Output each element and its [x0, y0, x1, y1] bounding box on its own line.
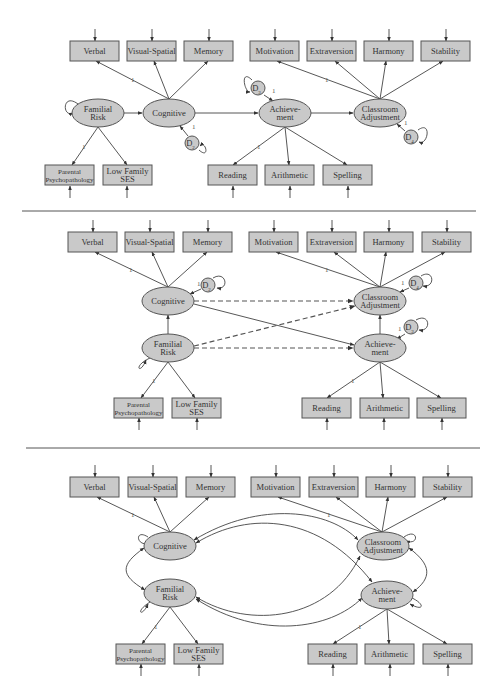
indicator-motivation: Motivation [249, 232, 298, 252]
indicator-extraversion: Extraversion [307, 41, 356, 61]
indicator-label: Visual-Spatial [125, 237, 174, 247]
fixed-loading-label: 1 [129, 266, 133, 274]
fixed-loading-label: 1 [325, 266, 329, 274]
indicator-label: Arithmetic [271, 170, 308, 180]
indicator-harmony: Harmony [364, 232, 413, 252]
disturbance-d3: D3 [251, 81, 265, 95]
indicator-label: Verbal [83, 482, 106, 492]
indicator-stability: Stability [422, 232, 471, 252]
indicator-label: Visual-Spatial [128, 482, 177, 492]
latent-cognitive: Cognitive [143, 99, 195, 127]
latent-familial-risk: FamilialRisk [72, 99, 124, 127]
latent-achievement: Achieve-ment [354, 334, 406, 362]
indicator-label: Memory [194, 46, 224, 56]
latent-classroom-adjustment: ClassroomAdjustment [354, 99, 406, 127]
indicator-label: SES [191, 653, 206, 663]
indicator-label: Motivation [256, 46, 295, 56]
indicator-label: Spelling [427, 403, 456, 413]
latent-familial-risk: FamilialRisk [142, 334, 194, 362]
latent-label: ment [372, 347, 390, 357]
panel-2-direct-and-mediated-nodes: VerbalVisual-SpatialMemoryMotivationExtr… [68, 232, 471, 418]
indicator-label: Verbal [83, 46, 106, 56]
indicator-memory: Memory [184, 41, 233, 61]
latent-familial-risk: FamilialRisk [144, 579, 196, 607]
indicator-motivation: Motivation [250, 41, 299, 61]
indicator-harmony: Harmony [364, 41, 413, 61]
fixed-loading-label: 1 [82, 143, 86, 151]
indicator-label: Extraversion [310, 46, 354, 56]
indicator-low-family-ses: Low FamilySES [103, 165, 152, 185]
indicator-label: Motivation [255, 237, 294, 247]
fixed-loading-label: 1 [325, 76, 329, 84]
latent-cognitive: Cognitive [142, 287, 194, 315]
indicator-label: Psychopathology [116, 655, 165, 663]
indicator-label: Reading [318, 649, 347, 659]
latent-label: Cognitive [152, 108, 186, 118]
indicator-label: Extraversion [312, 482, 356, 492]
indicator-label: Memory [193, 237, 223, 247]
indicator-spelling: Spelling [323, 165, 372, 185]
indicator-low-family-ses: Low FamilySES [172, 398, 221, 418]
latent-label: ment [277, 112, 295, 122]
indicator-label: Motivation [257, 482, 296, 492]
indicator-label: Extraversion [310, 237, 354, 247]
disturbance-d2: D2 [201, 278, 215, 292]
indicator-label: Reading [312, 403, 341, 413]
indicator-label: Harmony [372, 237, 405, 247]
fixed-loading-label: 1 [131, 76, 135, 84]
indicator-parental-psychopathology: ParentalPsychopathology [114, 398, 163, 418]
latent-label: Adjustment [360, 300, 400, 310]
indicator-spelling: Spelling [417, 398, 466, 418]
indicator-stability: Stability [423, 477, 472, 497]
indicator-visual-spatial: Visual-Spatial [127, 41, 176, 61]
indicator-parental-psychopathology: ParentalPsychopathology [116, 644, 165, 664]
disturbance-d4: D4 [404, 130, 418, 144]
indicator-visual-spatial: Visual-Spatial [125, 232, 174, 252]
indicator-label: Harmony [372, 46, 405, 56]
latent-label: Cognitive [151, 296, 185, 306]
fixed-loading-label: 1 [401, 279, 405, 287]
indicator-arithmetic: Arithmetic [365, 644, 414, 664]
indicator-reading: Reading [302, 398, 351, 418]
latent-label: Risk [160, 347, 176, 357]
indicator-label: SES [189, 407, 204, 417]
indicator-spelling: Spelling [423, 644, 472, 664]
latent-classroom-adjustment: ClassroomAdjustment [354, 287, 406, 315]
disturbance-d4: D4 [409, 276, 423, 290]
latent-achievement: Achieve-ment [259, 99, 311, 127]
indicator-arithmetic: Arithmetic [265, 165, 314, 185]
latent-label: Cognitive [153, 541, 187, 551]
latent-cognitive: Cognitive [144, 532, 196, 560]
indicator-label: SES [120, 174, 135, 184]
latent-label: Adjustment [360, 112, 400, 122]
indicator-label: Harmony [374, 482, 407, 492]
fixed-loading-label: 1 [197, 280, 201, 288]
indicator-low-family-ses: Low FamilySES [174, 644, 223, 664]
indicator-label: Arithmetic [371, 649, 408, 659]
nodes-layer: VerbalVisual-SpatialMemoryMotivationExtr… [45, 41, 472, 664]
panel-3-correlated-factors-nodes: VerbalVisual-SpatialMemoryMotivationExtr… [70, 477, 472, 664]
disturbance-d3: D3 [404, 320, 418, 334]
indicator-visual-spatial: Visual-Spatial [128, 477, 177, 497]
indicator-motivation: Motivation [251, 477, 300, 497]
indicator-verbal: Verbal [70, 477, 119, 497]
indicator-label: Verbal [81, 237, 104, 247]
disturbance-d2: D2 [185, 136, 199, 150]
fixed-loading-label: 1 [398, 325, 402, 333]
indicator-arithmetic: Arithmetic [360, 398, 409, 418]
indicator-memory: Memory [186, 477, 235, 497]
indicator-label: Stability [431, 46, 461, 56]
latent-classroom-adjustment: ClassroomAdjustment [357, 532, 409, 560]
indicator-label: Stability [432, 237, 462, 247]
fixed-loading-label: 1 [192, 123, 196, 131]
indicator-reading: Reading [208, 165, 257, 185]
latent-label: Risk [90, 112, 106, 122]
indicator-label: Visual-Spatial [127, 46, 176, 56]
fixed-loading-label: 1 [351, 377, 355, 385]
indicator-label: Spelling [333, 170, 362, 180]
fixed-loading-label: 1 [152, 377, 156, 385]
indicator-extraversion: Extraversion [307, 232, 356, 252]
latent-achievement: Achieve-ment [361, 581, 413, 609]
indicator-stability: Stability [421, 41, 470, 61]
indicator-label: Psychopathology [114, 409, 163, 417]
